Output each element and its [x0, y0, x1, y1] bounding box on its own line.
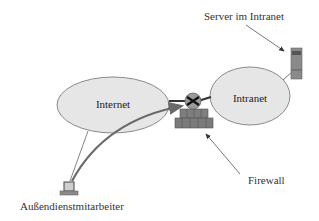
laptop-icon [60, 182, 78, 195]
intranet-server-link [283, 72, 292, 80]
worker-internet-link [70, 131, 88, 181]
intranet-label: Intranet [233, 92, 267, 104]
internet-label: Internet [96, 98, 130, 110]
firewall-label: Firewall [248, 174, 285, 186]
firewall-annotation-arrow [206, 134, 240, 174]
firewall-icon [175, 109, 213, 128]
server-label: Server im Intranet [204, 10, 284, 22]
server-icon [291, 48, 302, 79]
diagram-canvas [0, 0, 319, 221]
router-icon [185, 93, 201, 109]
remote-worker-label: Außendienstmitarbeiter [20, 200, 124, 212]
server-annotation-arrow [246, 25, 284, 51]
